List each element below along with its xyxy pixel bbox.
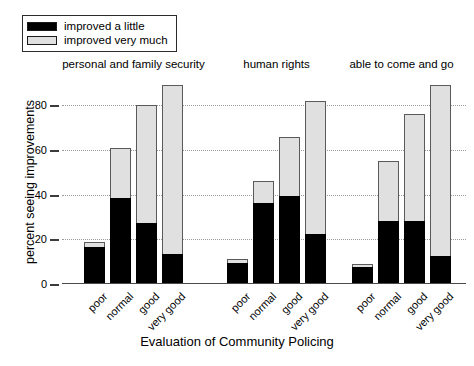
bar-0-good (136, 105, 157, 284)
legend-swatch-gray (27, 36, 57, 45)
bar-1-good (279, 137, 300, 284)
bar-segment-improved-a-little (279, 196, 300, 284)
legend-item-improved-very-much: improved very much (27, 34, 168, 47)
legend-label-improved-very-much: improved very much (64, 35, 168, 46)
bar-0-normal (110, 148, 131, 284)
x-axis-title: Evaluation of Community Policing (0, 334, 474, 349)
y-axis-title: percent seeing improvements (23, 67, 37, 297)
bar-segment-improved-a-little (305, 234, 326, 284)
bar-segment-improved-a-little (430, 256, 451, 284)
y-tick-0 (50, 284, 59, 286)
bar-2-good (404, 114, 425, 284)
bar-0-poor (84, 242, 105, 284)
bar-segment-improved-a-little (378, 221, 399, 284)
stacked-bar-chart: improved a little improved very much per… (0, 0, 474, 366)
legend-swatch-black (27, 22, 57, 31)
y-tick-label-0: 0 (41, 278, 47, 290)
y-tick-40 (50, 195, 59, 197)
bar-1-very-good (305, 101, 326, 284)
plot-area: 020406080 (62, 72, 466, 284)
bar-2-poor (352, 264, 373, 284)
bar-1-normal (253, 181, 274, 284)
y-tick-20 (50, 239, 59, 241)
bar-segment-improved-a-little (352, 267, 373, 284)
y-tick-60 (50, 150, 59, 152)
bar-2-normal (378, 161, 399, 284)
bar-2-very-good (430, 85, 451, 284)
bar-1-poor (227, 259, 248, 284)
bar-segment-improved-a-little (110, 198, 131, 284)
chart-legend: improved a little improved very much (22, 15, 177, 52)
bar-segment-improved-a-little (162, 254, 183, 284)
bar-segment-improved-a-little (404, 221, 425, 284)
y-tick-80 (50, 105, 59, 107)
x-axis-line (62, 283, 466, 285)
bar-segment-improved-a-little (136, 223, 157, 284)
group-title-2: able to come and go (292, 58, 474, 70)
bar-segment-improved-a-little (227, 263, 248, 284)
legend-label-improved-a-little: improved a little (64, 21, 145, 32)
bar-segment-improved-a-little (253, 203, 274, 284)
legend-item-improved-a-little: improved a little (27, 20, 168, 33)
bar-segment-improved-a-little (84, 247, 105, 284)
bar-0-very-good (162, 85, 183, 284)
gridline-80 (62, 105, 466, 106)
